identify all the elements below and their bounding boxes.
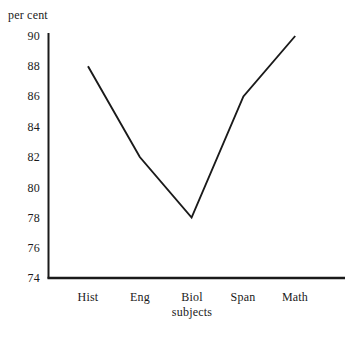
y-tick-label-86: 86	[14, 90, 40, 102]
plot-area	[0, 0, 364, 337]
y-tick-label-76: 76	[14, 242, 40, 254]
y-tick-label-84: 84	[14, 121, 40, 133]
x-tick-label-span: Span	[213, 291, 273, 304]
x-tick-label-hist: Hist	[58, 291, 118, 304]
x-tick-label-eng: Eng	[110, 291, 170, 304]
y-tick-label-78: 78	[14, 212, 40, 224]
y-tick-label-74: 74	[14, 272, 40, 284]
y-tick-label-80: 80	[14, 182, 40, 194]
line-chart: per cent 90 88 86 84 82 80 78 76 74 Hist…	[0, 0, 364, 337]
x-tick-label-math: Math	[265, 291, 325, 304]
x-axis-title: subjects	[152, 306, 232, 319]
y-tick-label-88: 88	[14, 60, 40, 72]
y-tick-label-82: 82	[14, 151, 40, 163]
data-line-series	[88, 36, 295, 218]
y-tick-label-90: 90	[14, 30, 40, 42]
